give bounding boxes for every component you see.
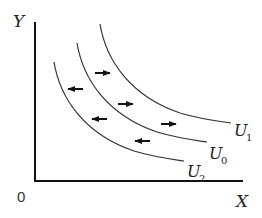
x-axis-label: X [234, 191, 249, 211]
svg-text:1: 1 [246, 132, 252, 143]
curve-label-u2: U 2 [187, 162, 205, 184]
origin-label: 0 [17, 188, 25, 205]
curve-label-u1: U 1 [234, 121, 252, 143]
curve-label-u0: U 0 [209, 144, 227, 166]
svg-text:2: 2 [199, 173, 205, 184]
curve-u0 [77, 43, 207, 142]
svg-text:0: 0 [221, 155, 227, 166]
y-axis-label: Y [13, 11, 26, 31]
curve-u1 [100, 24, 231, 123]
indifference-curve-diagram: Y X 0 U 1 U 0 U 2 [0, 0, 262, 218]
curve-u2 [54, 62, 184, 161]
